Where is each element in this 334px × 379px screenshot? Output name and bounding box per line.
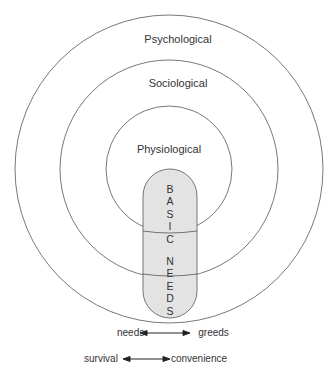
label-greeds: greeds [198,327,229,338]
letter: B [166,183,174,195]
letter: E [166,267,174,279]
letter: S [166,208,174,220]
label-survival: survival [84,353,118,364]
spectrum-survival-convenience: survival convenience [84,353,227,364]
letter: C [166,233,174,245]
letter: E [166,280,174,292]
letter: N [166,255,174,267]
label-physiological: Physiological [137,143,201,155]
letter: A [166,195,174,207]
label-needs: needs [117,327,144,338]
letter: I [166,220,174,232]
label-sociological: Sociological [149,77,208,89]
label-convenience: convenience [171,353,227,364]
letter-gap [166,245,174,255]
spectrum-needs-greeds: needs greeds [117,327,229,338]
label-psychological: Psychological [144,33,211,45]
letter: D [166,292,174,304]
basic-needs-text: B A S I C N E E D S [166,183,174,317]
letter: S [166,305,174,317]
